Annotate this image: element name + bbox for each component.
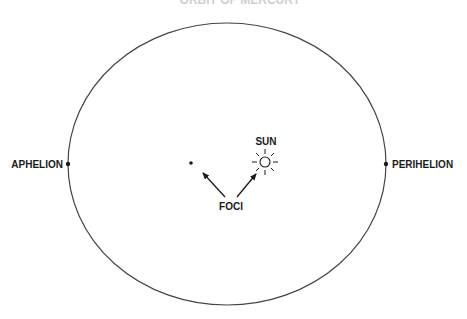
arrow-to-sun-focus [237,174,256,197]
aphelion-point [66,162,70,166]
orbit-ellipse [68,23,386,305]
empty-focus-point [189,161,193,165]
orbit-diagram: ORBIT OF MERCURY APHELION PERIHELION SUN… [0,0,467,319]
diagram-title: ORBIT OF MERCURY [180,0,301,7]
perihelion-point [384,162,388,166]
sun-label: SUN [255,136,276,147]
foci-label: FOCI [219,201,243,212]
arrow-to-empty-focus [203,173,225,197]
sun-icon [252,149,278,175]
perihelion-label: PERIHELION [392,159,453,170]
aphelion-label: APHELION [11,159,63,170]
